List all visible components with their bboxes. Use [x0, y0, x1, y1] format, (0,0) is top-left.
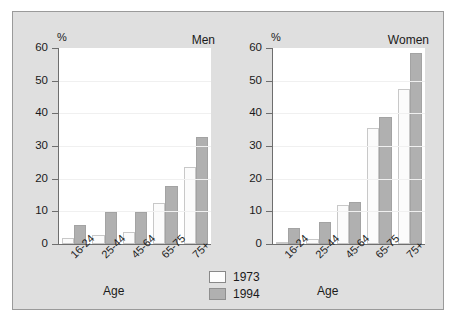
y-axis-tick: 60 — [52, 48, 58, 49]
gridline — [59, 211, 211, 212]
y-axis-tick: 0 — [266, 244, 272, 245]
y-axis-tick: 40 — [52, 113, 58, 114]
y-axis-tick-label: 60 — [249, 41, 262, 53]
y-axis-tick: 30 — [52, 146, 58, 147]
plot-area-women — [273, 48, 425, 244]
tick-mark — [52, 179, 58, 180]
panel-title-men: Men — [192, 33, 215, 47]
chart-figure: % Men 0102030405060 16-2425-4445-6465-75… — [12, 11, 444, 310]
legend-item-1994: 1994 — [209, 285, 289, 302]
y-axis-tick: 10 — [266, 211, 272, 212]
y-axis-tick-label: 60 — [35, 41, 48, 53]
x-axis-title-women: Age — [317, 284, 338, 298]
y-axis-tick-label: 30 — [35, 139, 48, 151]
tick-mark — [266, 244, 272, 245]
tick-mark — [52, 113, 58, 114]
plot-area-men — [59, 48, 211, 244]
tick-mark — [52, 211, 58, 212]
y-axis-tick-label: 50 — [249, 74, 262, 86]
chart-legend: 19731994 — [209, 268, 289, 302]
bar-1973-75+ — [398, 89, 410, 244]
tick-mark — [266, 81, 272, 82]
gridline — [273, 179, 425, 180]
y-axis-tick-label: 30 — [249, 139, 262, 151]
y-axis-unit-label: % — [271, 31, 281, 43]
gridline — [59, 113, 211, 114]
tick-mark — [52, 81, 58, 82]
gridline — [273, 146, 425, 147]
y-axis-tick-label: 0 — [256, 237, 262, 249]
y-axis-tick-label: 0 — [42, 237, 48, 249]
y-axis-unit-label: % — [57, 31, 67, 43]
legend-item-1973: 1973 — [209, 268, 289, 285]
y-axis-tick: 40 — [266, 113, 272, 114]
y-axis-tick-label: 50 — [35, 74, 48, 86]
gridline — [273, 81, 425, 82]
tick-mark — [52, 244, 58, 245]
tick-mark — [266, 179, 272, 180]
y-axis-line-men — [58, 48, 59, 245]
tick-mark — [266, 146, 272, 147]
y-axis-tick: 0 — [52, 244, 58, 245]
tick-mark — [52, 146, 58, 147]
gridline — [273, 211, 425, 212]
gridline — [59, 179, 211, 180]
legend-label-1973: 1973 — [233, 270, 260, 284]
legend-label-1994: 1994 — [233, 287, 260, 301]
y-axis-tick: 10 — [52, 211, 58, 212]
y-axis-tick-label: 10 — [35, 204, 48, 216]
tick-mark — [266, 113, 272, 114]
y-axis-tick: 20 — [266, 179, 272, 180]
tick-mark — [266, 211, 272, 212]
panel-title-women: Women — [388, 33, 429, 47]
legend-swatch-1973 — [209, 271, 226, 283]
y-axis-tick-label: 20 — [249, 172, 262, 184]
y-axis-tick: 60 — [266, 48, 272, 49]
y-axis-tick: 50 — [266, 81, 272, 82]
x-axis-title-men: Age — [103, 284, 124, 298]
chart-panel-women: % Women 0102030405060 16-2425-4445-6465-… — [227, 12, 443, 311]
y-axis-tick-label: 40 — [35, 106, 48, 118]
y-axis-tick: 30 — [266, 146, 272, 147]
y-axis-tick: 50 — [52, 81, 58, 82]
y-axis-tick-label: 10 — [249, 204, 262, 216]
gridline — [273, 113, 425, 114]
y-axis-line-women — [272, 48, 273, 245]
gridline — [59, 146, 211, 147]
bar-1994-75+ — [196, 137, 208, 244]
gridline — [59, 81, 211, 82]
legend-swatch-1994 — [209, 288, 226, 300]
y-axis-tick-label: 20 — [35, 172, 48, 184]
tick-mark — [266, 48, 272, 49]
chart-panel-men: % Men 0102030405060 16-2425-4445-6465-75… — [13, 12, 229, 311]
y-axis-tick: 20 — [52, 179, 58, 180]
tick-mark — [52, 48, 58, 49]
y-axis-tick-label: 40 — [249, 106, 262, 118]
bar-1994-65-75 — [379, 117, 391, 244]
